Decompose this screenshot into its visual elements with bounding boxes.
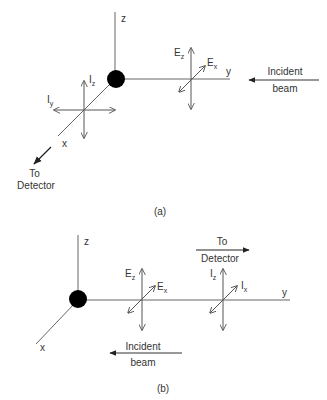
ez-label: Ez — [125, 268, 136, 281]
x-axis-label: x — [62, 138, 67, 149]
z-axis-label: z — [121, 13, 126, 24]
to-detector-label-line2: Detector — [201, 253, 239, 264]
incident-beam-label-line1: Incident — [125, 341, 160, 352]
x-axis — [36, 303, 75, 344]
to-detector-label: To Detector — [17, 168, 55, 191]
ez-label: Ez — [174, 47, 185, 60]
y-axis-label: y — [282, 287, 287, 298]
panel-b: z y x Ez Ex Iz Ix To Detector Incident b… — [36, 235, 290, 394]
z-axis-label: z — [84, 236, 89, 247]
x-axis — [58, 82, 112, 136]
ex-label: Ex — [157, 281, 168, 294]
ix-label: Ix — [241, 280, 248, 293]
caption-b: (b) — [157, 383, 169, 394]
scattering-geometry-diagram: z y x Iz Iy To Detector Ez Ex Incident b… — [0, 0, 327, 400]
to-detector-label-line1: To — [217, 236, 228, 247]
caption-a: (a) — [154, 206, 166, 217]
iz-label: Iz — [210, 268, 217, 281]
ex-label: Ex — [207, 57, 218, 70]
incident-beam-label-line1: Incident — [267, 66, 302, 77]
iy-label: Iy — [47, 94, 54, 108]
iz-label: Iz — [89, 74, 96, 87]
panel-a: z y x Iz Iy To Detector Ez Ex Incident b… — [17, 12, 319, 217]
y-axis-label: y — [226, 66, 231, 77]
incident-beam-label-line2: beam — [272, 83, 297, 94]
to-detector-arrow — [34, 147, 51, 164]
sample-ball — [107, 70, 125, 88]
x-axis-label: x — [40, 342, 45, 353]
sample-ball — [69, 290, 87, 308]
incident-beam-label-line2: beam — [130, 357, 155, 368]
